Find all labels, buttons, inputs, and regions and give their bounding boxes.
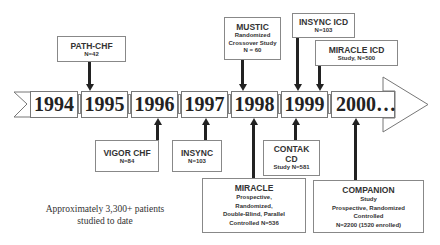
study-box-path-chf: PATH-CHF N=42 <box>57 36 126 62</box>
connector-line <box>204 125 207 140</box>
year-1997: 1997 <box>181 91 228 118</box>
patients-summary: Approximately 3,300+ patients studied to… <box>40 203 170 227</box>
timeline-tail <box>14 92 30 117</box>
year-2000: 2000… <box>331 91 395 118</box>
year-1998: 1998 <box>231 91 278 118</box>
summary-line-2: studied to date <box>40 215 170 227</box>
year-1994: 1994 <box>30 91 78 118</box>
year-1999: 1999 <box>281 91 328 118</box>
study-detail: Study <box>314 195 423 204</box>
connector-line <box>318 66 321 84</box>
arrow-up-icon <box>250 118 258 125</box>
study-detail: N=42 <box>58 51 125 59</box>
arrow-down-icon <box>316 84 324 91</box>
connector-line <box>156 125 159 140</box>
study-box-mustic: MUSTIC Randomized Crossover Study N = 60 <box>224 17 281 60</box>
connector-line <box>294 125 297 140</box>
arrow-up-icon <box>352 118 360 125</box>
study-name: CONTAK CD <box>272 144 312 164</box>
study-name: COMPANION <box>314 185 423 195</box>
arrow-down-icon <box>294 84 302 91</box>
study-detail: N=84 <box>96 158 158 166</box>
summary-line-1: Approximately 3,300+ patients <box>40 203 170 215</box>
year-1996: 1996 <box>131 91 178 118</box>
study-name: MIRACLE ICD <box>316 45 397 55</box>
study-box-insync: INSYNC N=103 <box>172 140 222 172</box>
study-detail: Prospective, <box>203 193 305 202</box>
connector-line <box>252 125 255 178</box>
arrow-down-icon <box>239 84 247 91</box>
connector-line <box>354 125 357 180</box>
study-detail: Double-Blind, Parallel <box>203 210 305 219</box>
study-detail: N=103 <box>293 27 354 35</box>
study-name: MUSTIC <box>225 22 280 32</box>
study-detail: N=2200 (1520 enrolled) <box>314 221 423 230</box>
arrow-down-icon <box>86 84 94 91</box>
connector-line <box>88 62 91 84</box>
year-1995: 1995 <box>81 91 128 118</box>
study-name: INSYNC <box>173 148 221 158</box>
arrow-up-icon <box>292 118 300 125</box>
study-box-contak-cd: CONTAK CD Study N=581 <box>263 140 320 176</box>
arrow-up-icon <box>154 118 162 125</box>
study-box-insync-icd: INSYNC ICD N=103 <box>292 13 355 38</box>
study-detail: N = 60 <box>225 47 280 55</box>
study-box-vigor-chf: VIGOR CHF N=84 <box>95 140 159 172</box>
study-detail: Controlled <box>314 212 423 221</box>
study-name: PATH-CHF <box>58 41 125 51</box>
study-name: INSYNC ICD <box>293 17 354 27</box>
study-name: VIGOR CHF <box>96 148 158 158</box>
study-detail: Prospective, Randomized <box>314 204 423 213</box>
study-box-companion: COMPANION Study Prospective, Randomized … <box>313 180 424 233</box>
study-name: MIRACLE <box>203 183 305 193</box>
study-detail: Randomized <box>225 32 280 40</box>
study-detail: Randomized, <box>203 202 305 211</box>
study-detail: Crossover Study <box>225 40 280 48</box>
study-box-miracle-icd: MIRACLE ICD Study, N=500 <box>315 40 398 66</box>
study-box-miracle: MIRACLE Prospective, Randomized, Double-… <box>202 178 306 233</box>
study-detail: N=103 <box>173 158 221 166</box>
connector-line <box>296 38 299 84</box>
study-detail: Study, N=500 <box>316 55 397 63</box>
arrow-up-icon <box>202 118 210 125</box>
study-detail: Study N=581 <box>264 164 319 172</box>
connector-line <box>241 60 244 84</box>
study-detail: Controlled N=536 <box>203 219 305 228</box>
